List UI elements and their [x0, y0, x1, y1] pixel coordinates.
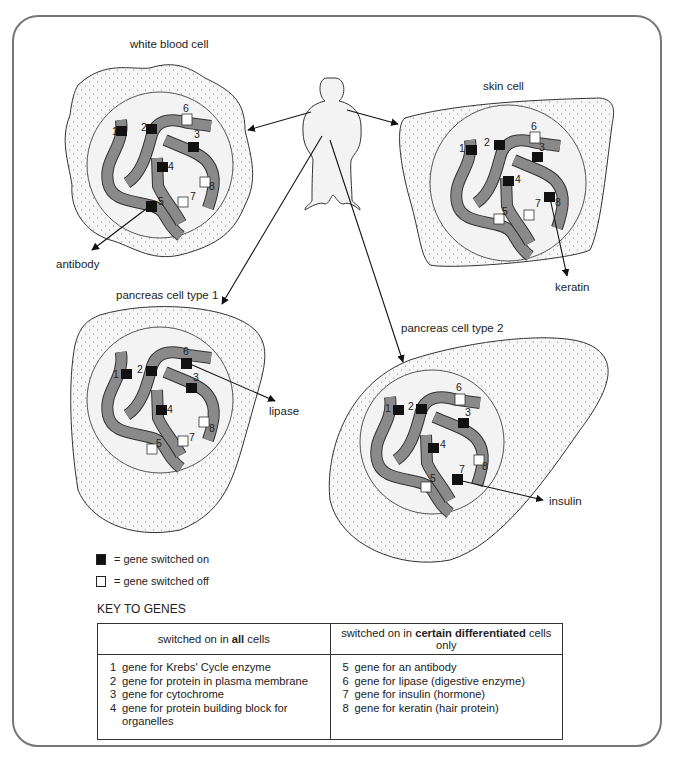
svg-text:1: 1: [459, 142, 465, 154]
cell-title-pancreas-cell-type-2: pancreas cell type 2: [401, 322, 503, 334]
white-blood-cell: [65, 65, 252, 257]
svg-text:4: 4: [168, 160, 174, 172]
gene-item: 7gene for insulin (hormone): [343, 688, 557, 702]
legend-gene-off: = gene switched off: [96, 575, 209, 587]
svg-text:7: 7: [189, 431, 195, 443]
cell-title-pancreas-cell-type-1: pancreas cell type 1: [116, 289, 218, 301]
svg-text:5: 5: [158, 195, 164, 207]
svg-text:6: 6: [531, 120, 537, 132]
gene-item: 6gene for lipase (digestive enzyme): [343, 675, 557, 689]
svg-text:2: 2: [484, 136, 490, 148]
svg-text:3: 3: [465, 406, 471, 418]
col2-header: switched on in certain differentiated ce…: [330, 624, 563, 655]
gene-item: 8gene for keratin (hair protein): [343, 702, 557, 716]
svg-text:6: 6: [183, 345, 189, 357]
svg-text:2: 2: [137, 363, 143, 375]
cell-title-skin-cell: skin cell: [483, 80, 524, 92]
svg-text:5: 5: [156, 437, 162, 449]
svg-text:7: 7: [190, 190, 196, 202]
product-label-lipase: lipase: [269, 405, 299, 417]
product-label-insulin: insulin: [549, 495, 582, 507]
gene-item: 4gene for protein building block for org…: [110, 702, 300, 729]
gene-item: 3gene for cytochrome: [110, 688, 324, 702]
gene-item: 2gene for protein in plasma membrane: [110, 675, 324, 689]
svg-text:8: 8: [209, 180, 215, 192]
svg-text:6: 6: [456, 381, 462, 393]
svg-text:4: 4: [167, 403, 173, 415]
svg-text:7: 7: [459, 463, 465, 475]
col1-header: switched on in all cells: [98, 624, 331, 655]
svg-text:4: 4: [515, 173, 521, 185]
svg-text:1: 1: [113, 368, 119, 380]
legend-gene-on: = gene switched on: [96, 553, 209, 565]
svg-text:2: 2: [408, 400, 414, 412]
legend-on-label: = gene switched on: [114, 553, 209, 565]
col2-genes: 5gene for an antibody 6gene for lipase (…: [330, 655, 563, 740]
cell-title-white-blood-cell: white blood cell: [130, 38, 209, 50]
svg-text:1: 1: [385, 402, 391, 414]
svg-text:6: 6: [183, 102, 189, 114]
pancreas-cell-type-2: [329, 338, 608, 562]
svg-text:3: 3: [194, 128, 200, 140]
col1-genes: 1gene for Krebs' Cycle enzyme 2gene for …: [98, 655, 331, 740]
svg-text:2: 2: [141, 121, 147, 133]
svg-text:8: 8: [209, 422, 215, 434]
human-figure-icon: [303, 78, 361, 210]
product-label-antibody: antibody: [56, 258, 99, 270]
svg-text:3: 3: [539, 141, 545, 153]
gene-key-table: switched on in all cells switched on in …: [97, 623, 563, 740]
pancreas-cell-type-1: [71, 307, 265, 533]
legend-off-label: = gene switched off: [114, 575, 209, 587]
svg-text:4: 4: [440, 438, 446, 450]
gene-item: 1gene for Krebs' Cycle enzyme: [110, 661, 324, 675]
svg-text:3: 3: [193, 371, 199, 383]
product-label-keratin: keratin: [555, 281, 590, 293]
key-title: KEY TO GENES: [97, 602, 186, 616]
gene-off-swatch-icon: [96, 576, 106, 587]
gene-item: 5gene for an antibody: [343, 661, 557, 675]
gene-on-swatch-icon: [96, 554, 106, 565]
svg-text:1: 1: [112, 125, 118, 137]
svg-text:8: 8: [482, 460, 488, 472]
svg-text:8: 8: [555, 196, 561, 208]
svg-text:7: 7: [535, 197, 541, 209]
svg-text:5: 5: [430, 472, 436, 484]
svg-text:5: 5: [502, 205, 508, 217]
